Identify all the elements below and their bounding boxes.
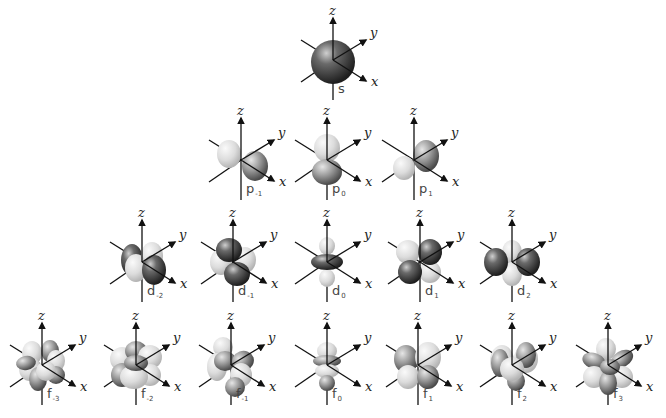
orbital-label: s xyxy=(338,82,346,98)
x-axis-label: x xyxy=(80,380,87,393)
z-axis-label: z xyxy=(227,309,234,322)
orbital-f-3: z y x f3 xyxy=(563,310,649,410)
y-axis-label: y xyxy=(179,228,186,241)
orbital-shape xyxy=(373,310,463,410)
x-axis-label: x xyxy=(271,277,278,290)
y-axis-label: y xyxy=(364,331,371,344)
orbital-f-m1: z y x f-1 xyxy=(186,310,272,410)
z-axis-label: z xyxy=(229,206,236,219)
z-axis-label: z xyxy=(604,309,611,322)
orbital-f-m2: z y x f-2 xyxy=(91,310,177,410)
orbital-shape xyxy=(282,207,372,307)
z-axis-label: z xyxy=(508,309,515,322)
z-axis-label: z xyxy=(508,206,515,219)
x-axis-label: x xyxy=(550,380,557,393)
orbital-f-0: z y x f0 xyxy=(282,310,368,410)
y-axis-label: y xyxy=(457,228,464,241)
orbital-shape xyxy=(282,310,372,410)
orbital-d-m2: z y x d-2 xyxy=(97,207,183,307)
orbital-shape xyxy=(282,105,372,205)
orbital-p-m1: z y x p-1 xyxy=(196,105,282,205)
orbital-p-0: z y x p0 xyxy=(282,105,368,205)
y-axis-label: y xyxy=(364,228,371,241)
x-axis-label: x xyxy=(458,277,465,290)
z-axis-label: z xyxy=(416,206,423,219)
y-axis-label: y xyxy=(270,228,277,241)
z-axis-label: z xyxy=(323,206,330,219)
x-axis-label: x xyxy=(371,75,378,88)
z-axis-label: z xyxy=(38,309,45,322)
z-axis-label: z xyxy=(329,4,336,17)
y-axis-label: y xyxy=(173,331,180,344)
y-axis-label: y xyxy=(455,331,462,344)
x-axis-label: x xyxy=(174,380,181,393)
orbital-lobes xyxy=(393,140,439,180)
orbital-label: d1 xyxy=(425,284,439,300)
orbital-label: f1 xyxy=(423,387,433,403)
orbital-label: f-1 xyxy=(236,387,249,403)
orbital-label: f0 xyxy=(332,387,342,403)
y-axis-label: y xyxy=(451,126,458,139)
orbital-label: d-1 xyxy=(238,284,254,300)
orbital-shape xyxy=(563,310,653,410)
orbital-shape xyxy=(97,207,187,307)
orbital-shape xyxy=(91,310,181,410)
orbital-label: p0 xyxy=(332,182,346,198)
orbital-shape xyxy=(467,207,557,307)
x-axis-label: x xyxy=(646,380,653,393)
z-axis-label: z xyxy=(132,309,139,322)
orbital-p-1: z y x p1 xyxy=(369,105,455,205)
orbital-shape xyxy=(369,105,459,205)
x-axis-label: x xyxy=(180,277,187,290)
z-axis-label: z xyxy=(323,104,330,117)
orbital-shape xyxy=(186,310,276,410)
z-axis-label: z xyxy=(414,309,421,322)
orbital-label: f3 xyxy=(613,387,623,403)
z-axis-label: z xyxy=(323,309,330,322)
orbital-d-m1: z y x d-1 xyxy=(188,207,274,307)
x-axis-label: x xyxy=(456,380,463,393)
orbital-label: f-3 xyxy=(47,387,60,403)
orbital-d-2: z y x d2 xyxy=(467,207,553,307)
orbital-label: f2 xyxy=(517,387,527,403)
orbital-label: f-2 xyxy=(141,387,154,403)
y-axis-label: y xyxy=(370,26,377,39)
y-axis-label: y xyxy=(79,331,86,344)
orbital-label: p-1 xyxy=(246,182,262,198)
z-axis-label: z xyxy=(138,206,145,219)
orbital-label: d-2 xyxy=(147,284,163,300)
orbital-d-0: z y x d0 xyxy=(282,207,368,307)
orbital-label: d2 xyxy=(517,284,531,300)
orbital-label: p1 xyxy=(419,182,433,198)
orbital-shape xyxy=(288,5,378,105)
orbital-shape xyxy=(0,310,87,410)
orbital-d-1: z y x d1 xyxy=(375,207,461,307)
x-axis-label: x xyxy=(365,380,372,393)
z-axis-label: z xyxy=(410,104,417,117)
y-axis-label: y xyxy=(549,228,556,241)
orbital-shape xyxy=(196,105,286,205)
orbital-lobes xyxy=(15,340,65,391)
orbital-shape xyxy=(188,207,278,307)
orbital-f-2: z y x f2 xyxy=(467,310,553,410)
z-axis-label: z xyxy=(237,104,244,117)
orbital-shape xyxy=(467,310,557,410)
orbital-f-1: z y x f1 xyxy=(373,310,459,410)
x-axis-label: x xyxy=(365,277,372,290)
y-axis-label: y xyxy=(549,331,556,344)
orbital-lobes xyxy=(207,337,257,397)
orbital-s: z y x s xyxy=(288,5,374,105)
orbital-label: d0 xyxy=(332,284,346,300)
x-axis-label: x xyxy=(550,277,557,290)
y-axis-label: y xyxy=(268,331,275,344)
x-axis-label: x xyxy=(269,380,276,393)
orbital-shape xyxy=(375,207,465,307)
x-axis-label: x xyxy=(452,175,459,188)
orbital-f-m3: z y x f-3 xyxy=(0,310,83,410)
y-axis-label: y xyxy=(645,331,652,344)
